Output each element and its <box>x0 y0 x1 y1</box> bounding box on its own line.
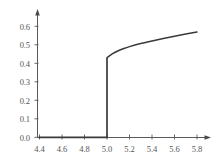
y-tick-label-2: 0.2 <box>8 96 30 106</box>
y-tick-label-5: 0.5 <box>8 40 30 50</box>
x-axis-arrow-icon <box>205 135 212 140</box>
x-tick-label-7: 5.8 <box>185 144 209 154</box>
x-tick-label-3: 5.0 <box>95 144 119 154</box>
y-tick-label-1: 0.1 <box>8 114 30 124</box>
x-tick-label-1: 4.6 <box>50 144 74 154</box>
x-tick-label-5: 5.4 <box>140 144 164 154</box>
y-tick-label-3: 0.3 <box>8 77 30 87</box>
y-axis-arrow-icon <box>35 9 40 16</box>
x-tick-label-6: 5.6 <box>163 144 187 154</box>
x-tick-label-2: 4.8 <box>73 144 97 154</box>
series-upper-branch <box>107 32 197 58</box>
plot-area <box>0 0 216 166</box>
y-tick-label-0: 0.0 <box>8 133 30 143</box>
x-tick-label-0: 4.4 <box>28 144 52 154</box>
y-tick-label-6: 0.6 <box>8 22 30 32</box>
x-tick-label-4: 5.2 <box>118 144 142 154</box>
chart-container: 0.0 0.1 0.2 0.3 0.4 0.5 0.6 4.4 4.6 4.8 … <box>0 0 216 166</box>
y-tick-label-4: 0.4 <box>8 59 30 69</box>
